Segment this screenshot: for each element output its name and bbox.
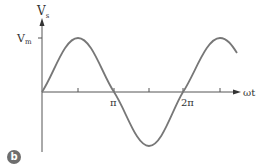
vm-label: Vm — [16, 32, 32, 46]
two-pi-label: 2π — [181, 97, 194, 108]
y-axis-arrow-icon — [40, 18, 45, 26]
pi-label: π — [110, 97, 117, 108]
figure-badge: b — [7, 150, 21, 164]
sine-wave-diagram: Vs Vm ωt π 2π — [0, 0, 268, 166]
y-axis-label: Vs — [36, 4, 50, 20]
x-axis-arrow-icon — [233, 90, 241, 95]
x-axis-label: ωt — [243, 87, 255, 98]
